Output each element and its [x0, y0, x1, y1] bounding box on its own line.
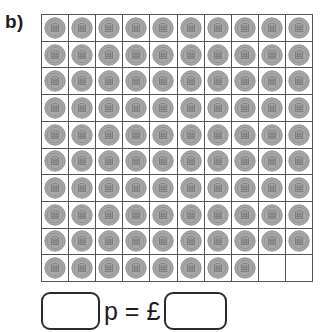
one-penny-coin-icon [234, 230, 256, 252]
one-penny-coin-icon [125, 230, 147, 252]
grid-cell-with-coin [123, 149, 150, 176]
one-penny-coin-icon [180, 150, 202, 172]
one-penny-coin-icon [44, 124, 66, 146]
pence-answer-box[interactable] [41, 292, 100, 330]
one-penny-coin-icon [261, 17, 283, 39]
one-penny-coin-icon [180, 204, 202, 226]
grid-cell-with-coin [205, 175, 232, 202]
one-penny-coin-icon [288, 150, 310, 172]
one-penny-coin-icon [180, 257, 202, 279]
grid-cell-with-coin [96, 95, 123, 122]
grid-cell-with-coin [178, 15, 205, 42]
grid-cell-with-coin [232, 42, 259, 69]
pounds-answer-box[interactable] [164, 292, 227, 330]
one-penny-coin-icon [261, 150, 283, 172]
grid-cell-with-coin [123, 229, 150, 256]
grid-cell-with-coin [150, 42, 177, 69]
one-penny-coin-icon [71, 17, 93, 39]
grid-cell-with-coin [123, 15, 150, 42]
one-penny-coin-icon [44, 177, 66, 199]
one-penny-coin-icon [261, 44, 283, 66]
one-penny-coin-icon [207, 97, 229, 119]
one-penny-coin-icon [152, 124, 174, 146]
one-penny-coin-icon [71, 44, 93, 66]
one-penny-coin-icon [180, 44, 202, 66]
grid-cell-with-coin [205, 149, 232, 176]
grid-cell-with-coin [232, 175, 259, 202]
one-penny-coin-icon [261, 204, 283, 226]
grid-cell-with-coin [123, 255, 150, 282]
one-penny-coin-icon [98, 70, 120, 92]
grid-cell-with-coin [123, 175, 150, 202]
grid-cell-with-coin [42, 15, 69, 42]
one-penny-coin-icon [44, 257, 66, 279]
one-penny-coin-icon [288, 44, 310, 66]
one-penny-coin-icon [152, 177, 174, 199]
one-penny-coin-icon [71, 177, 93, 199]
one-penny-coin-icon [288, 97, 310, 119]
answer-operator-label: p = £ [100, 292, 164, 324]
one-penny-coin-icon [98, 124, 120, 146]
grid-cell-with-coin [69, 149, 96, 176]
grid-cell-with-coin [150, 202, 177, 229]
grid-cell-with-coin [178, 175, 205, 202]
grid-cell-with-coin [69, 42, 96, 69]
one-penny-coin-icon [44, 17, 66, 39]
grid-cell-with-coin [123, 95, 150, 122]
grid-cell-with-coin [42, 175, 69, 202]
grid-cell-with-coin [96, 122, 123, 149]
grid-cell-with-coin [42, 95, 69, 122]
one-penny-coin-icon [234, 70, 256, 92]
grid-cell-with-coin [96, 202, 123, 229]
one-penny-coin-icon [98, 204, 120, 226]
one-penny-coin-icon [44, 150, 66, 172]
grid-cell-with-coin [178, 122, 205, 149]
one-penny-coin-icon [44, 204, 66, 226]
grid-cell-with-coin [42, 68, 69, 95]
grid-cell-with-coin [69, 202, 96, 229]
one-penny-coin-icon [234, 124, 256, 146]
one-penny-coin-icon [207, 44, 229, 66]
answer-row: p = £ [41, 292, 227, 332]
grid-cell-with-coin [42, 122, 69, 149]
grid-cell-with-coin [259, 202, 286, 229]
one-penny-coin-icon [98, 177, 120, 199]
one-penny-coin-icon [207, 17, 229, 39]
grid-cell-with-coin [286, 122, 313, 149]
one-penny-coin-icon [234, 44, 256, 66]
question-part-label: b) [5, 12, 24, 31]
one-penny-coin-icon [44, 97, 66, 119]
grid-cell-with-coin [178, 68, 205, 95]
one-penny-coin-icon [180, 70, 202, 92]
grid-cell-with-coin [232, 95, 259, 122]
one-penny-coin-icon [125, 44, 147, 66]
one-penny-coin-icon [71, 204, 93, 226]
one-penny-coin-icon [125, 150, 147, 172]
grid-cell-empty [259, 255, 286, 282]
one-penny-coin-icon [207, 257, 229, 279]
grid-cell-with-coin [178, 42, 205, 69]
one-penny-coin-icon [261, 97, 283, 119]
grid-cell-with-coin [69, 15, 96, 42]
one-penny-coin-icon [207, 124, 229, 146]
grid-cell-with-coin [259, 229, 286, 256]
one-penny-coin-icon [234, 17, 256, 39]
one-penny-coin-icon [71, 150, 93, 172]
grid-cell-with-coin [259, 95, 286, 122]
one-penny-coin-icon [98, 44, 120, 66]
grid-cell-with-coin [123, 68, 150, 95]
grid-cell-with-coin [205, 42, 232, 69]
grid-cell-with-coin [150, 95, 177, 122]
one-penny-coin-icon [234, 97, 256, 119]
one-penny-coin-icon [152, 204, 174, 226]
grid-cell-with-coin [286, 175, 313, 202]
one-penny-coin-icon [180, 17, 202, 39]
one-penny-coin-icon [288, 17, 310, 39]
one-penny-coin-icon [152, 17, 174, 39]
grid-cell-with-coin [286, 42, 313, 69]
grid-cell-with-coin [259, 42, 286, 69]
one-penny-coin-icon [125, 97, 147, 119]
one-penny-coin-icon [125, 257, 147, 279]
grid-cell-with-coin [286, 202, 313, 229]
